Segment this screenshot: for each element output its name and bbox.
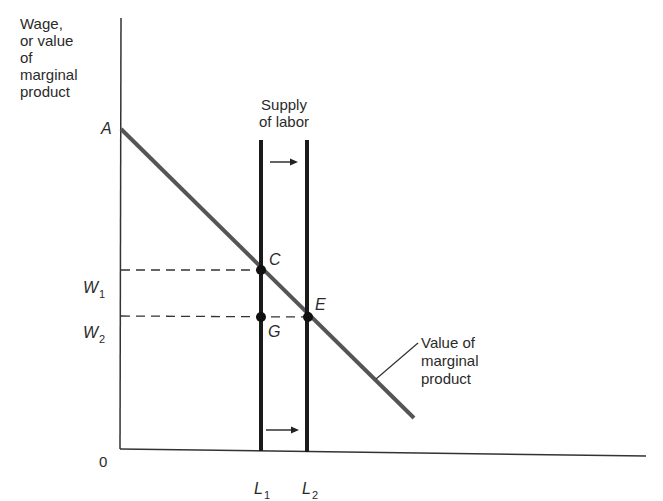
vmp-curve	[121, 129, 414, 418]
w1-subscript: 1	[99, 288, 105, 300]
point-c	[256, 265, 266, 275]
label-g: G	[268, 323, 280, 341]
shift-arrow-bottom	[266, 427, 299, 434]
label-e: E	[315, 296, 326, 314]
w2-subscript: 2	[99, 333, 105, 345]
label-l1: L1	[254, 462, 270, 499]
shift-arrow-top	[270, 159, 298, 166]
supply-label: Supply of labor	[259, 96, 309, 130]
origin-label: 0	[99, 453, 107, 471]
l2-letter: L	[302, 480, 311, 497]
vmp-leader-line	[376, 343, 418, 379]
label-l2: L2	[302, 462, 318, 499]
point-e	[303, 312, 313, 322]
label-w1: W1	[83, 261, 105, 298]
w1-letter: W	[83, 279, 98, 296]
l2-subscript: 2	[312, 489, 318, 501]
label-w2: W2	[83, 306, 105, 343]
l1-letter: L	[254, 480, 263, 497]
y-axis-label: Wage, or value of marginal product	[20, 15, 78, 100]
label-c: C	[269, 251, 281, 269]
l1-subscript: 1	[264, 489, 270, 501]
point-g	[256, 312, 266, 322]
label-a: A	[101, 120, 112, 138]
w2-dashed-line	[121, 316, 307, 317]
y-axis	[120, 18, 121, 449]
x-axis	[120, 449, 646, 456]
w2-letter: W	[83, 324, 98, 341]
vmp-label: Value of marginal product	[421, 334, 479, 388]
